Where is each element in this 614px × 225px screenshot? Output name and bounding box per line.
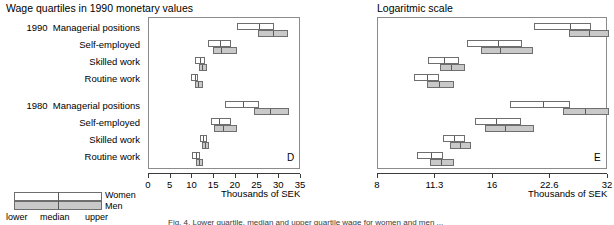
row-label-1980-routine: Routine work [0,151,140,162]
median-line-d-row3-men [198,82,199,87]
median-line-e-row5-men [505,126,506,131]
median-line-d-row1-women [220,41,221,46]
axis-tick-label-e-0: 8 [357,179,397,190]
axis-tick-e-3 [549,174,550,178]
figure-caption: Fig. 4. Lower quartile, median and upper… [168,218,443,225]
row-label-1990-skilled: Skilled work [0,56,140,67]
quartile-box-d-row4-men [254,108,288,115]
panel-e-label: E [594,152,601,163]
median-line-e-row1-women [498,41,499,46]
quartile-box-e-row3-men [427,81,454,88]
axis-tick-e-4 [607,174,608,178]
axis-tick-e-2 [492,174,493,178]
median-line-d-row7-men [199,160,200,165]
median-line-d-row4-women [243,102,244,107]
median-line-d-row2-women [200,58,201,63]
median-line-d-row2-men [202,65,203,70]
axis-tick-e-1 [434,174,435,178]
median-line-e-row6-men [460,143,461,148]
axis-tick-d-7 [300,174,301,178]
axis-tick-d-6 [278,174,279,178]
axis-tick-label-e-4: 32 [587,179,614,190]
row-label-1980-managerial: 1980 Managerial positions [0,100,140,111]
row-label-1990-routine: Routine work [0,73,140,84]
median-line-e-row2-women [444,58,445,63]
legend-lower-label: lower [6,212,28,222]
quartile-box-e-row1-men [481,47,533,54]
median-line-d-row4-men [270,109,271,114]
quartile-box-e-row7-women [417,152,443,159]
median-line-d-row6-women [203,136,204,141]
axis-tick-d-0 [148,174,149,178]
quartile-box-d-row5-women [211,118,231,125]
legend-median-label: median [40,212,70,222]
category-managerial-label-1980: Managerial positions [53,100,140,111]
quartile-box-d-row1-men [213,47,237,54]
legend-median-line [58,192,59,210]
median-line-e-row2-men [451,65,452,70]
quartile-box-e-row5-men [485,125,534,132]
median-line-d-row1-men [221,48,222,53]
legend-women-label: Women [105,190,136,200]
quartile-box-e-row0-women [534,23,591,30]
row-label-1980-skilled: Skilled work [0,134,140,145]
quartile-box-e-row2-men [440,64,465,71]
median-line-d-row6-men [205,143,206,148]
median-line-e-row4-women [543,102,544,107]
quartile-box-d-row0-women [237,23,274,30]
axis-tick-label-e-2: 16 [472,179,512,190]
axis-tick-label-e-1: 11.3 [414,179,454,190]
quartile-box-e-row5-women [475,118,521,125]
quartile-box-e-row4-women [510,101,570,108]
axis-tick-d-3 [213,174,214,178]
quartile-box-e-row1-women [467,40,522,47]
median-line-e-row7-women [431,153,432,158]
median-line-d-row5-men [223,126,224,131]
year-1990-label: 1990 [26,22,47,33]
axis-tick-d-1 [170,174,171,178]
median-line-d-row3-women [195,75,196,80]
panel-e-title: Logaritmic scale [377,2,453,14]
median-line-e-row5-women [496,119,497,124]
median-line-d-row7-women [196,153,197,158]
median-line-e-row6-women [454,136,455,141]
axis-tick-e-0 [377,174,378,178]
median-line-d-row5-women [219,119,220,124]
median-line-e-row3-men [439,82,440,87]
category-managerial-label: Managerial positions [53,22,140,33]
year-1980-label: 1980 [26,100,47,111]
median-line-d-row0-women [259,24,260,29]
axis-tick-d-5 [257,174,258,178]
axis-tick-d-4 [235,174,236,178]
axis-tick-d-2 [191,174,192,178]
median-line-e-row1-men [500,48,501,53]
axis-tick-label-e-3: 22.6 [529,179,569,190]
row-label-1980-self-employed: Self-employed [0,117,140,128]
median-line-e-row4-men [585,109,586,114]
panel-d-label: D [287,152,294,163]
row-label-1990-self-employed: Self-employed [0,39,140,50]
median-line-e-row0-men [589,31,590,36]
legend-men-label: Men [105,201,123,211]
median-line-e-row3-women [427,75,428,80]
quartile-box-d-row5-men [214,125,237,132]
row-label-1990-managerial: 1990 Managerial positions [0,22,140,33]
median-line-d-row0-men [273,31,274,36]
axis-tick-label-d-7: 35 [280,179,320,190]
panel-d-title: Wage quartiles in 1990 monetary values [6,2,193,14]
median-line-e-row0-women [570,24,571,29]
quartile-box-e-row4-men [563,108,609,115]
median-line-e-row7-men [441,160,442,165]
legend-upper-label: upper [85,212,108,222]
figure-root: Wage quartiles in 1990 monetary values L… [0,0,614,225]
